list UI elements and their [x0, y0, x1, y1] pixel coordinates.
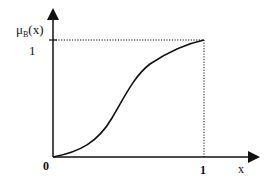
membership-diagram: μB(x) 1 0 1 x [0, 0, 280, 186]
x-tick-one-label: 1 [200, 163, 206, 177]
origin-label: 0 [43, 159, 49, 173]
y-tick-one-label: 1 [29, 43, 36, 58]
y-axis-label: μB(x) [16, 22, 44, 39]
x-axis-label: x [238, 162, 244, 176]
membership-curve [53, 40, 204, 157]
